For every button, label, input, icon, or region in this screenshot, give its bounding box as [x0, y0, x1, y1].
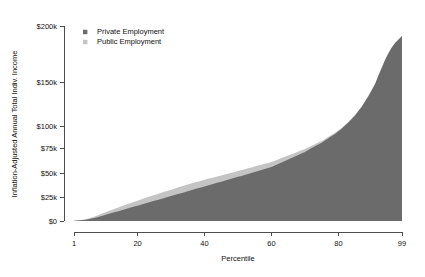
area-private-employment: [74, 36, 402, 221]
x-axis: 12040608099: [72, 232, 406, 248]
chart-figure: $0$25k$50k$75k$100k$150k$200k 1204060809…: [0, 0, 425, 277]
y-tick-label: $200k: [37, 22, 58, 31]
x-tick-label: 60: [267, 239, 275, 248]
y-tick-label: $150k: [37, 78, 58, 87]
plot-area: [74, 36, 402, 221]
y-tick-label: $100k: [37, 122, 58, 131]
legend-label: Public Employment: [97, 37, 162, 46]
legend-swatch: [83, 30, 87, 34]
legend-swatch: [83, 40, 87, 44]
stacked-area-chart: $0$25k$50k$75k$100k$150k$200k 1204060809…: [0, 0, 425, 277]
y-axis: $0$25k$50k$75k$100k$150k$200k: [37, 22, 64, 226]
y-axis-title: Inflation-Adjusted Annual Total Indiv. I…: [10, 51, 19, 198]
x-tick-label: 20: [133, 239, 141, 248]
chart-legend: Private EmploymentPublic Employment: [83, 27, 165, 46]
x-axis-title: Percentile: [221, 254, 254, 263]
legend-label: Private Employment: [97, 27, 165, 36]
y-tick-label: $75k: [41, 144, 58, 153]
y-tick-label: $0: [49, 217, 57, 226]
x-tick-label: 40: [200, 239, 208, 248]
y-tick-label: $25k: [41, 193, 58, 202]
y-tick-label: $50k: [41, 169, 58, 178]
x-tick-label: 1: [72, 239, 76, 248]
x-tick-label: 80: [334, 239, 342, 248]
x-tick-label: 99: [398, 239, 406, 248]
